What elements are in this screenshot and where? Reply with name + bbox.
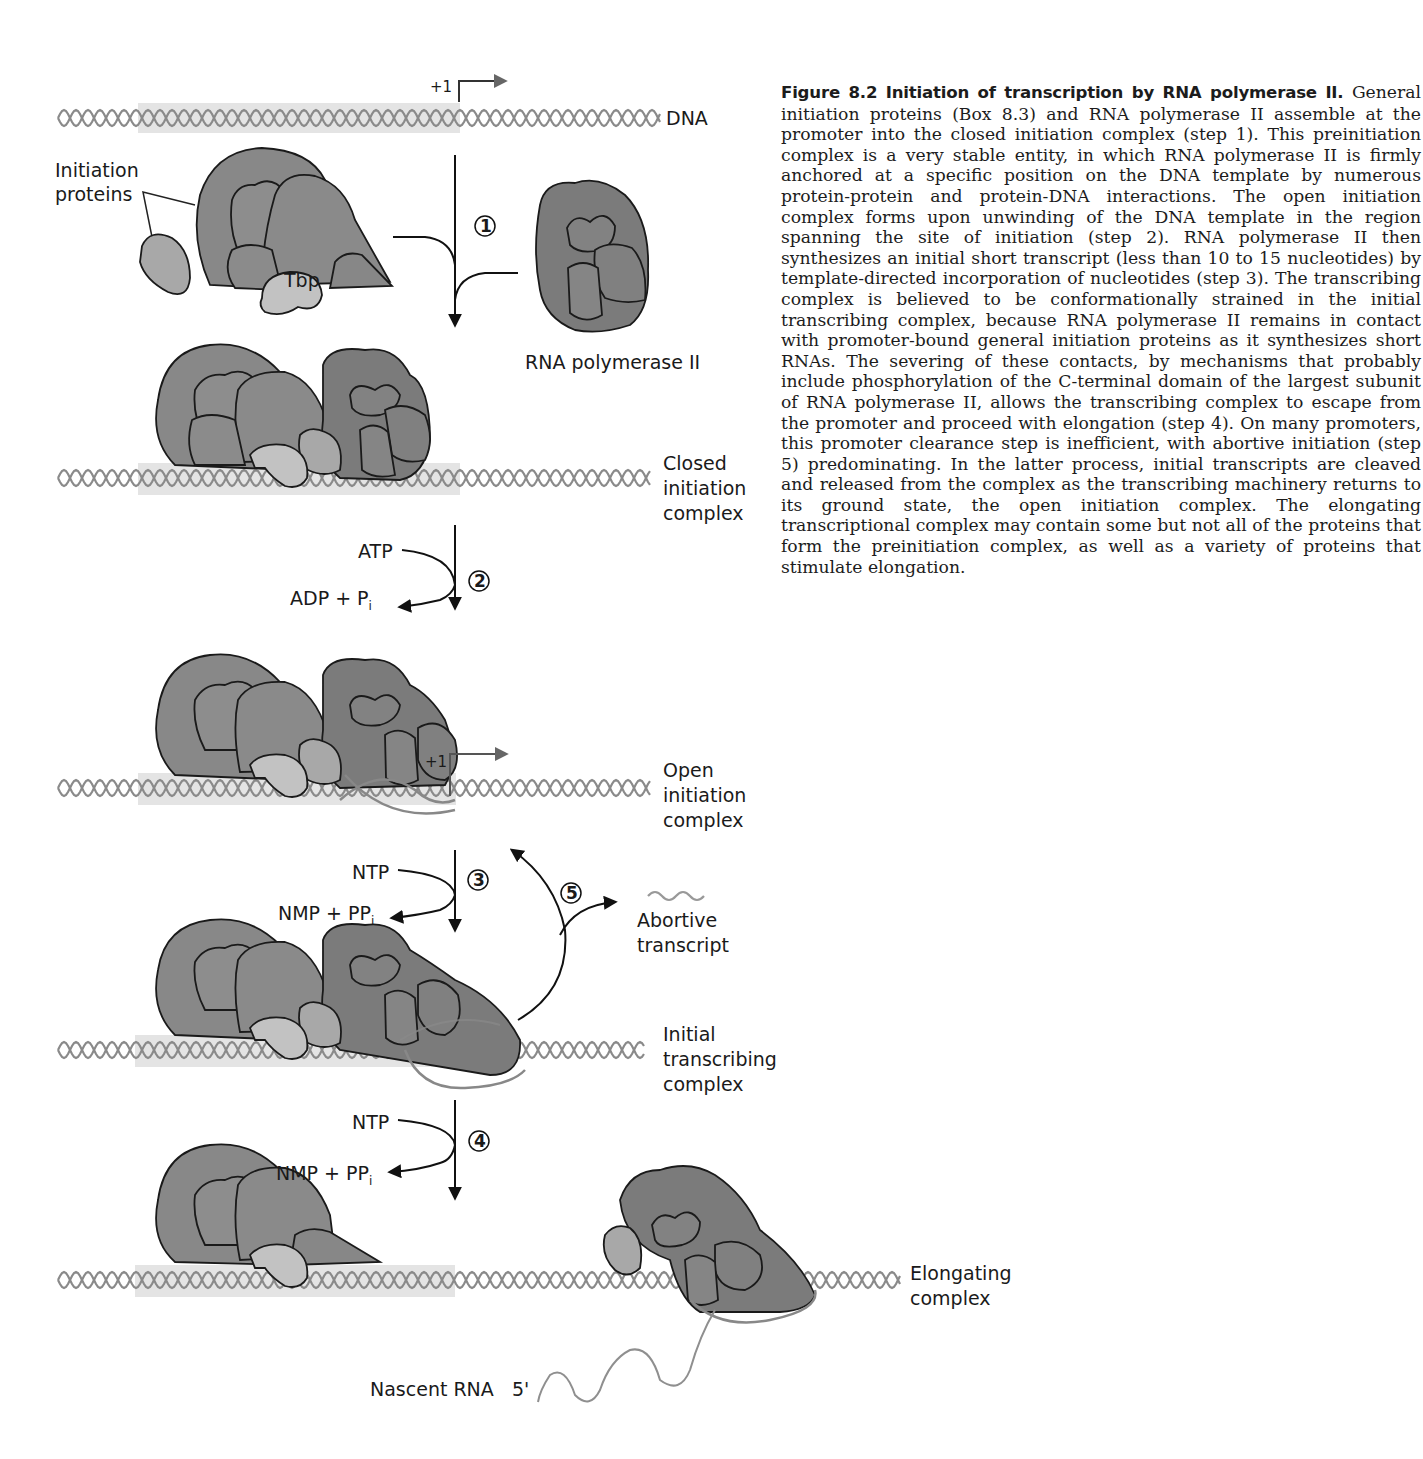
closed-label-2: initiation: [663, 477, 746, 499]
small-initiation-protein: [140, 234, 190, 294]
initial-label-3: complex: [663, 1073, 744, 1095]
elongating-complex-row: NMP + PPi Elongating complex Nascent RNA…: [58, 1144, 1012, 1402]
step-2-arrows: 2 ATP ADP + Pi: [290, 525, 489, 613]
open-label-2: initiation: [663, 784, 746, 806]
step-4-arrows: 4 NTP: [352, 1100, 489, 1198]
tbp-label: Tbp: [283, 269, 320, 291]
abortive-label-1: Abortive: [637, 909, 717, 931]
figure-number: Figure 8.2: [781, 83, 877, 102]
initial-label-2: transcribing: [663, 1048, 777, 1070]
open-label-1: Open: [663, 759, 714, 781]
closed-label-1: Closed: [663, 452, 727, 474]
adp-pi-label: ADP + Pi: [290, 587, 372, 613]
figure-caption: Figure 8.2 Initiation of transcription b…: [781, 82, 1421, 577]
initial-label-1: Initial: [663, 1023, 716, 1045]
open-initiation-complex: +1 Open initiation complex: [58, 654, 746, 831]
elongating-label-2: complex: [910, 1287, 991, 1309]
elongating-polymerase: [604, 1166, 815, 1312]
step-2-number: 2: [474, 571, 486, 591]
step-4-number: 4: [474, 1131, 486, 1151]
nascent-rna-label: Nascent RNA: [370, 1378, 494, 1400]
step-1-arrows: 1: [393, 155, 518, 325]
rna-polymerase-ii-free: [536, 181, 648, 332]
start-site-label: +1: [430, 78, 452, 96]
caption-body: General initiation proteins (Box 8.3) an…: [781, 82, 1421, 577]
initiation-proteins-label-2: proteins: [55, 183, 132, 205]
step-5-number: 5: [566, 883, 578, 903]
ntp-label-1: NTP: [352, 861, 389, 883]
start-site-arrow: [459, 81, 505, 102]
abortive-transcript-wave: [648, 892, 704, 900]
closed-label-3: complex: [663, 502, 744, 524]
elongating-label-1: Elongating: [910, 1262, 1012, 1284]
five-prime-label: 5': [512, 1378, 529, 1400]
figure-title: Initiation of transcription by RNA polym…: [886, 83, 1344, 102]
open-label-3: complex: [663, 809, 744, 831]
abortive-label-2: transcript: [637, 934, 729, 956]
step-3-arrows: 3 NTP NMP + PPi: [278, 850, 488, 930]
rna-polymerase-ii-label: RNA polymerase II: [525, 351, 700, 373]
dna-row-free: +1 DNA: [58, 78, 708, 133]
step-3-number: 3: [473, 870, 485, 890]
initiation-proteins-pointer: [143, 192, 195, 237]
step-1-number: 1: [480, 216, 492, 236]
nascent-rna-strand: [538, 1310, 715, 1402]
ntp-label-2: NTP: [352, 1111, 389, 1133]
initiation-proteins-label-1: Initiation: [55, 159, 139, 181]
start-site-label-open: +1: [425, 753, 447, 771]
atp-label: ATP: [358, 540, 393, 562]
step-5-arrows: 5 Abortive transcript: [512, 850, 729, 1020]
initiation-proteins-cluster: Tbp: [140, 148, 392, 314]
dna-label: DNA: [666, 107, 708, 129]
